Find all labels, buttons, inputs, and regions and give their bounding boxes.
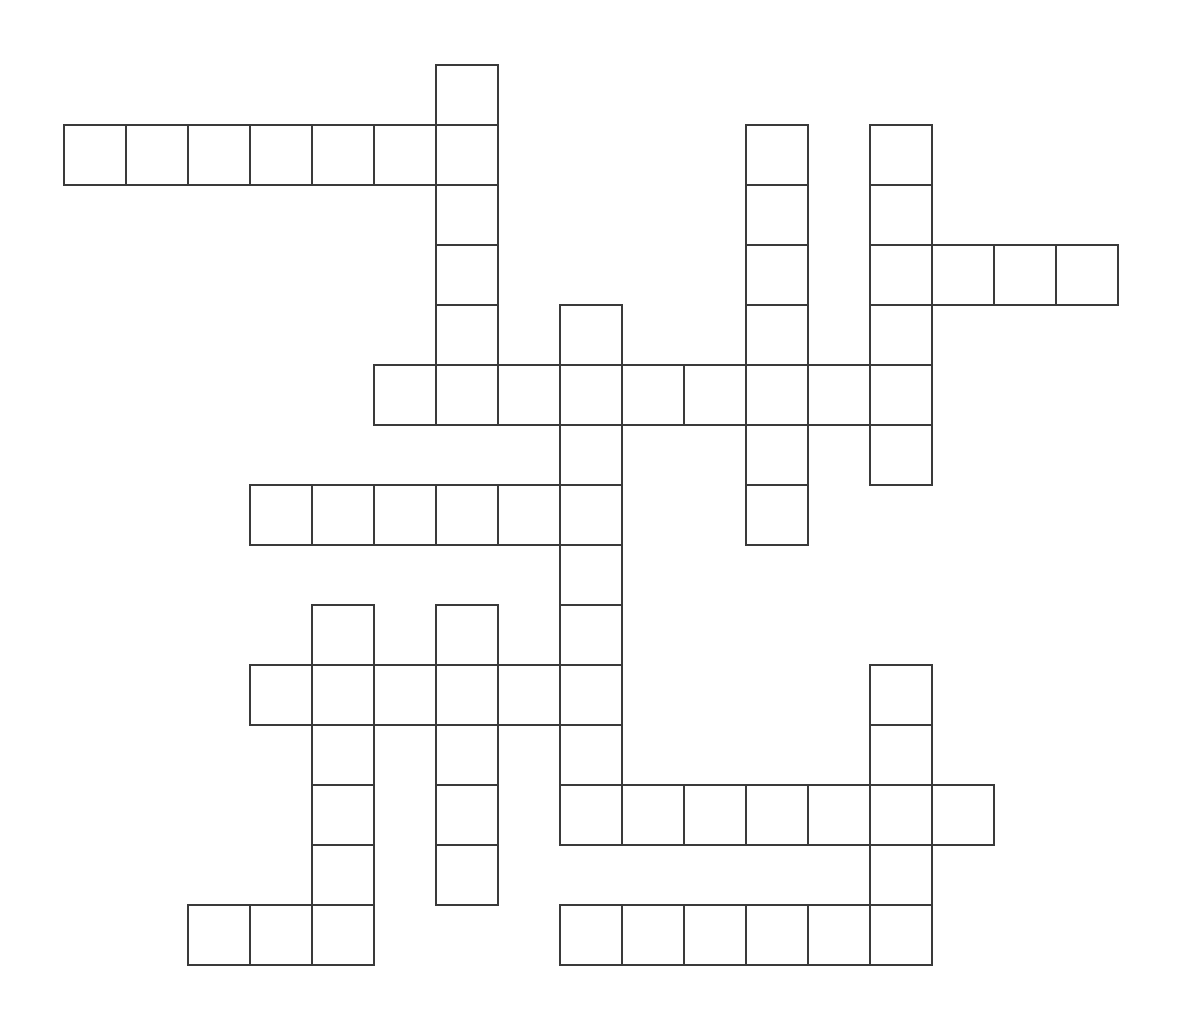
cell-letter [561,486,621,544]
crossword-cell[interactable] [745,244,809,306]
crossword-cell[interactable] [435,844,499,906]
crossword-cell[interactable] [869,184,933,246]
crossword-cell[interactable] [249,124,313,186]
crossword-cell[interactable] [807,904,871,966]
crossword-cell[interactable] [869,724,933,786]
crossword-cell[interactable] [559,364,623,426]
crossword-cell[interactable] [311,124,375,186]
cell-letter [437,486,497,544]
crossword-cell[interactable] [745,904,809,966]
crossword-cell[interactable] [559,544,623,606]
crossword-cell[interactable] [745,184,809,246]
crossword-cell[interactable] [745,784,809,846]
crossword-cell[interactable] [1055,244,1119,306]
crossword-cell[interactable] [311,604,375,666]
crossword-cell[interactable] [559,904,623,966]
crossword-cell[interactable] [745,304,809,366]
crossword-cell[interactable] [497,364,561,426]
crossword-cell[interactable] [435,124,499,186]
crossword-cell[interactable] [745,364,809,426]
crossword-cell[interactable] [249,904,313,966]
crossword-cell[interactable] [559,604,623,666]
crossword-cell[interactable] [311,484,375,546]
crossword-cell[interactable] [683,364,747,426]
crossword-cell[interactable] [869,784,933,846]
cell-letter [561,546,621,604]
cell-letter [313,786,373,844]
crossword-cell[interactable] [745,124,809,186]
cell-letter [561,366,621,424]
crossword-cell[interactable] [311,724,375,786]
crossword-cell[interactable] [559,304,623,366]
cell-letter [871,666,931,724]
crossword-cell[interactable] [435,184,499,246]
crossword-cell[interactable] [435,244,499,306]
crossword-cell[interactable] [559,484,623,546]
crossword-cell[interactable] [435,484,499,546]
crossword-cell[interactable] [373,364,437,426]
crossword-cell[interactable] [869,124,933,186]
crossword-cell[interactable] [683,904,747,966]
crossword-cell[interactable] [373,484,437,546]
crossword-cell[interactable] [869,304,933,366]
crossword-cell[interactable] [621,904,685,966]
cell-letter [313,606,373,664]
crossword-cell[interactable] [435,724,499,786]
crossword-cell[interactable] [435,304,499,366]
cell-letter [251,906,311,964]
crossword-cell[interactable] [559,784,623,846]
cell-letter [561,606,621,664]
crossword-cell[interactable] [63,124,127,186]
crossword-cell[interactable] [249,664,313,726]
crossword-cell[interactable] [311,904,375,966]
crossword-cell[interactable] [869,364,933,426]
crossword-cell[interactable] [869,244,933,306]
crossword-cell[interactable] [807,364,871,426]
crossword-cell[interactable] [869,424,933,486]
cell-letter [561,666,621,724]
crossword-cell[interactable] [187,904,251,966]
crossword-cell[interactable] [869,904,933,966]
crossword-cell[interactable] [621,364,685,426]
crossword-cell[interactable] [311,844,375,906]
crossword-cell[interactable] [683,784,747,846]
crossword-cell[interactable] [745,484,809,546]
crossword-cell[interactable] [435,784,499,846]
crossword-cell[interactable] [125,124,189,186]
cell-letter [65,126,125,184]
crossword-cell[interactable] [497,484,561,546]
crossword-cell[interactable] [993,244,1057,306]
cell-letter [747,786,807,844]
cell-letter [809,786,869,844]
cell-letter [499,366,559,424]
crossword-cell[interactable] [497,664,561,726]
crossword-cell[interactable] [311,784,375,846]
crossword-cell[interactable] [559,424,623,486]
crossword-cell[interactable] [435,64,499,126]
crossword-cell[interactable] [311,664,375,726]
cell-letter [437,846,497,904]
crossword-cell[interactable] [869,664,933,726]
crossword-cell[interactable] [187,124,251,186]
crossword-cell[interactable] [559,724,623,786]
crossword-cell[interactable] [931,784,995,846]
crossword-cell[interactable] [559,664,623,726]
cell-letter [871,306,931,364]
crossword-cell[interactable] [807,784,871,846]
cell-letter [747,486,807,544]
crossword-cell[interactable] [931,244,995,306]
crossword-cell[interactable] [745,424,809,486]
crossword-cell[interactable] [435,664,499,726]
cell-letter [685,786,745,844]
crossword-cell[interactable] [621,784,685,846]
crossword-cell[interactable] [869,844,933,906]
crossword-cell[interactable] [373,664,437,726]
cell-letter [313,666,373,724]
crossword-cell[interactable] [435,604,499,666]
cell-letter [809,906,869,964]
cell-letter [313,846,373,904]
crossword-cell[interactable] [435,364,499,426]
crossword-cell[interactable] [373,124,437,186]
cell-letter [375,366,435,424]
crossword-cell[interactable] [249,484,313,546]
